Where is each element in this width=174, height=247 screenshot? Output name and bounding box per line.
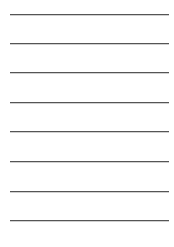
lined-sheet <box>0 0 174 247</box>
ruled-line <box>10 43 169 44</box>
ruled-line <box>10 131 169 132</box>
ruled-line <box>10 14 169 15</box>
ruled-line <box>10 102 169 103</box>
ruled-line <box>10 220 169 221</box>
ruled-line <box>10 72 169 73</box>
ruled-line <box>10 161 169 162</box>
ruled-line <box>10 191 169 192</box>
